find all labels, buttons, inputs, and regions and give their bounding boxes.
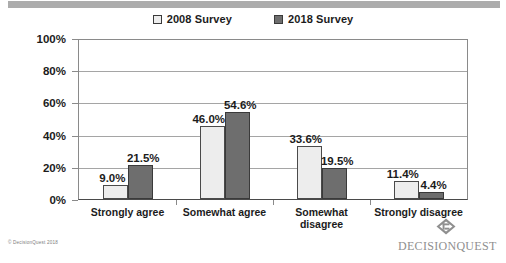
- y-axis-tick-20: 20%: [22, 162, 66, 174]
- bar-2008-strongly-agree[interactable]: 9.0%: [103, 185, 128, 199]
- bar-2008-somewhat-agree[interactable]: 46.0%: [200, 126, 225, 199]
- bar-2008-strongly-disagree[interactable]: 11.4%: [394, 181, 419, 199]
- category-separator-tick: [176, 200, 177, 205]
- diamond-logo-icon: [436, 218, 456, 235]
- category-label-line2: disagree: [300, 218, 343, 230]
- legend-item-2018: 2018 Survey: [274, 13, 353, 25]
- bar-value-label: 19.5%: [321, 155, 354, 167]
- bar-group-somewhat-agree: 46.0% 54.6%: [176, 40, 273, 199]
- bar-value-label: 33.6%: [289, 133, 322, 145]
- category-label-somewhat-disagree: Somewhat disagree: [273, 206, 370, 230]
- light-square-swatch-icon: [153, 15, 162, 24]
- bar-2008-somewhat-disagree[interactable]: 33.6%: [297, 146, 322, 199]
- y-axis: 100% 80% 60% 40% 20% 0%: [28, 39, 72, 200]
- category-label-strongly-agree: Strongly agree: [79, 206, 176, 230]
- y-axis-tick-0: 0%: [22, 194, 66, 206]
- bar-value-label: 9.0%: [99, 172, 125, 184]
- bar-value-label: 54.6%: [224, 99, 257, 111]
- legend-label-2018: 2018 Survey: [288, 13, 353, 25]
- bar-group-strongly-agree: 9.0% 21.5%: [79, 40, 176, 199]
- y-axis-tick-60: 60%: [22, 97, 66, 109]
- category-separator-tick: [273, 200, 274, 205]
- bar-2018-strongly-disagree[interactable]: 4.4%: [419, 192, 444, 199]
- bar-value-label: 11.4%: [387, 168, 419, 180]
- logo-wordmark: DECISIONQUEST: [398, 239, 497, 253]
- bar-group-somewhat-disagree: 33.6% 19.5%: [273, 40, 370, 199]
- bar-value-label: 21.5%: [127, 152, 160, 164]
- chart-page: 2008 Survey 2018 Survey 100% 80% 60% 40%…: [0, 0, 506, 263]
- dark-square-swatch-icon: [274, 15, 283, 24]
- decisionquest-logo: DECISIONQUEST: [398, 218, 494, 254]
- category-separator-tick: [370, 200, 371, 205]
- bar-value-label: 4.4%: [421, 179, 447, 191]
- chart-legend: 2008 Survey 2018 Survey: [0, 13, 506, 25]
- bar-groups: 9.0% 21.5% 46.0% 54.6% 33.6%: [79, 40, 467, 199]
- bar-2018-somewhat-disagree[interactable]: 19.5%: [322, 168, 347, 199]
- bar-value-label: 46.0%: [192, 113, 225, 125]
- bar-2018-strongly-agree[interactable]: 21.5%: [128, 165, 153, 199]
- bar-2018-somewhat-agree[interactable]: 54.6%: [225, 112, 250, 199]
- category-label-line1: Somewhat: [295, 206, 348, 218]
- legend-item-2008: 2008 Survey: [153, 13, 232, 25]
- y-tick-mark: [72, 200, 78, 201]
- y-axis-tick-80: 80%: [22, 65, 66, 77]
- bar-group-strongly-disagree: 11.4% 4.4%: [370, 40, 467, 199]
- category-label-somewhat-agree: Somewhat agree: [176, 206, 273, 230]
- y-axis-tick-100: 100%: [22, 33, 66, 45]
- copyright-notice: © DecisionQuest 2018: [8, 240, 58, 245]
- legend-label-2008: 2008 Survey: [167, 13, 232, 25]
- y-axis-tick-40: 40%: [22, 130, 66, 142]
- scan-artifact-band: [8, 1, 500, 8]
